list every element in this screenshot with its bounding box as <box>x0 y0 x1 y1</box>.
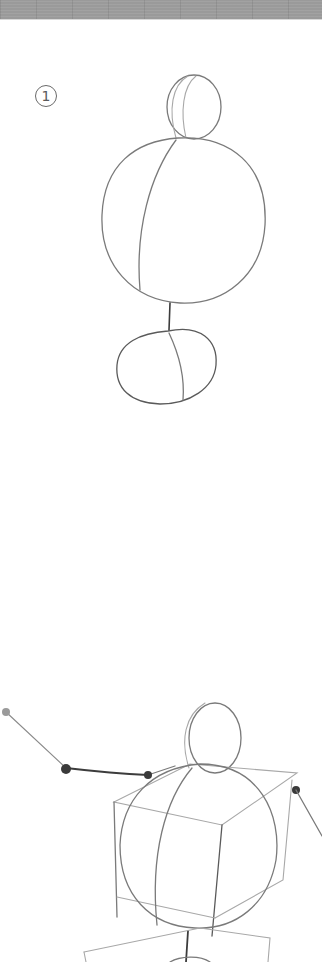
pelvis-oval <box>117 329 216 404</box>
body-circle <box>102 138 265 303</box>
sketch-figure-step-2 <box>0 640 322 962</box>
neck-line <box>169 303 170 330</box>
neck-and-pelvis <box>84 928 270 962</box>
head-circle <box>185 703 241 773</box>
shoulder-joint <box>144 771 152 779</box>
elbow-joint <box>61 764 71 774</box>
arm-joints <box>2 708 322 836</box>
hand-joint <box>2 708 10 716</box>
body-circle <box>120 764 277 928</box>
sketch-figure-step-1 <box>0 0 322 420</box>
head-circle <box>167 75 221 139</box>
